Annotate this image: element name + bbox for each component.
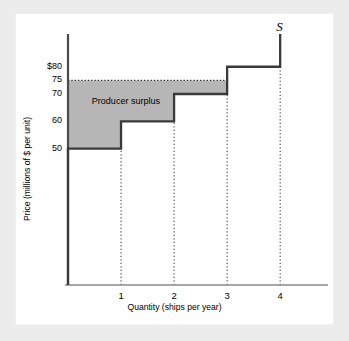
- y-tick-label: 70: [16, 88, 62, 98]
- x-tick-label: 1: [111, 290, 131, 301]
- producer-surplus-region: [68, 80, 227, 148]
- y-tick-label: 60: [16, 115, 62, 125]
- x-tick-label: 2: [164, 290, 184, 301]
- y-axis-label: Price (millions of $ per unit): [22, 84, 32, 254]
- x-tick-label: 4: [270, 290, 290, 301]
- producer-surplus-label: Producer surplus: [92, 96, 160, 106]
- supply-curve-label: S: [276, 19, 283, 35]
- y-tick-label: 50: [16, 143, 62, 153]
- x-axis-label: Quantity (ships per year): [16, 302, 333, 312]
- y-tick-label: $80: [16, 61, 62, 71]
- x-tick-label: 3: [217, 290, 237, 301]
- y-tick-label: 75: [16, 74, 62, 84]
- supply-curve: [68, 34, 280, 285]
- supply-curve-chart: [16, 14, 333, 324]
- chart-panel: Price (millions of $ per unit) Quantity …: [16, 14, 333, 324]
- figure-frame: Price (millions of $ per unit) Quantity …: [0, 0, 349, 341]
